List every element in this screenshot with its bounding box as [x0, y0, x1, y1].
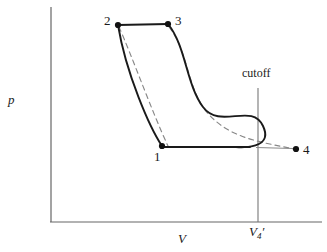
combustion-path-2-3 — [118, 24, 168, 25]
state-label-1: 1 — [154, 150, 161, 163]
diagram-canvas — [0, 0, 327, 252]
state-label-4: 4 — [303, 143, 310, 156]
v4-prime-mark: ′ — [261, 224, 264, 239]
y-axis-label: p — [8, 93, 15, 106]
x-axis-label: V — [178, 232, 186, 245]
cutoff-label: cutoff — [242, 67, 270, 79]
state-point-3-dot — [165, 21, 171, 27]
state-point-2-dot — [115, 22, 121, 28]
state-point-4-dot — [293, 146, 299, 152]
state-label-3: 3 — [175, 14, 182, 27]
state-label-2: 2 — [104, 14, 111, 27]
pv-diagram-figure: p V 2 3 1 4 cutoff V4′ — [0, 0, 327, 252]
ideal-expansion-dashed-path — [169, 27, 294, 149]
solid-cycle-group — [118, 24, 265, 147]
expansion-path-3-blowdown — [168, 24, 265, 147]
v4-prime-label: V4′ — [249, 225, 264, 241]
v4-base: V — [249, 224, 257, 239]
dashed-process-group — [119, 27, 294, 149]
compression-path-1-2 — [118, 25, 162, 146]
axes-group — [50, 7, 322, 222]
ideal-compression-dashed-path — [119, 27, 168, 146]
